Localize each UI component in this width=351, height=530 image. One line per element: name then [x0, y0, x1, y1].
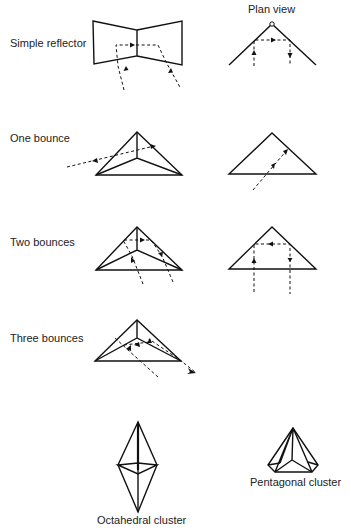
two-bounces-plan-figure: [229, 227, 316, 294]
plan-view-figure: [229, 22, 316, 66]
two-bounces-cube-figure: [96, 227, 182, 284]
three-bounces-cube-figure: [95, 320, 196, 377]
simple-reflector-figure: [93, 21, 182, 90]
reflector-diagram: [0, 0, 351, 530]
octahedral-cluster-figure: [118, 422, 157, 512]
pentagonal-cluster-figure: [268, 428, 318, 472]
one-bounce-plan-figure: [229, 133, 316, 190]
one-bounce-cube-figure: [67, 132, 182, 175]
